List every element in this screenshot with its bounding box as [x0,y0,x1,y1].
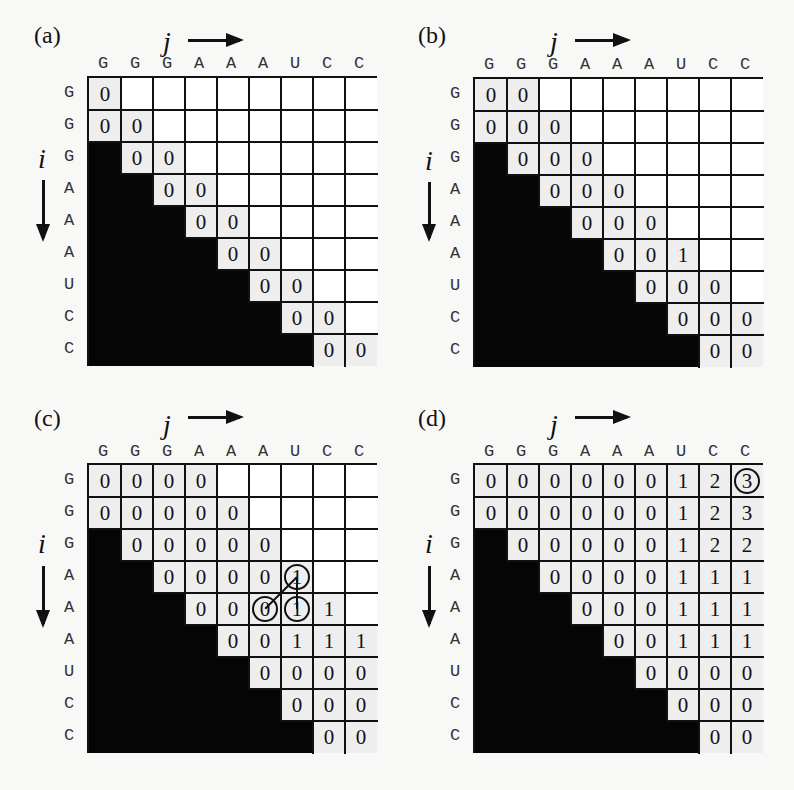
matrix-cell-unused [507,303,539,335]
matrix-cell: 0 [185,529,217,561]
matrix-cell-unused [89,625,121,657]
grid-line [152,528,154,562]
matrix-cell-unused [475,271,507,303]
column-nucleotide-label: U [285,443,305,460]
matrix-cell-unused [539,721,571,753]
matrix-cell-empty [667,111,699,143]
matrix-cell-unused [89,593,121,625]
matrix-cell-empty [603,79,635,111]
matrix-cell: 0 [313,721,345,753]
matrix-cell-unused [571,689,603,721]
grid-line [280,688,314,690]
matrix-cell: 0 [185,465,217,497]
grid-line [120,528,122,562]
grid-line [634,174,668,176]
grid-line [184,141,186,175]
matrix-cell-unused [475,303,507,335]
matrix-cell: 0 [217,625,249,657]
grid-line [730,302,732,336]
grid-line [216,173,250,175]
column-nucleotide-label: A [253,443,273,460]
grid-line [152,109,186,111]
grid-line [602,110,636,112]
grid-line [248,656,282,658]
grid-line [666,238,700,240]
row-nucleotide-label: A [59,631,79,648]
matrix-cell: 0 [345,657,377,689]
grid-line [216,141,250,143]
grid-line [730,110,764,112]
grid-line [730,78,732,112]
grid-line [666,560,700,562]
matrix-cell: 0 [153,142,185,174]
matrix-cell-unused [539,207,571,239]
grid-line [634,270,668,272]
grid-line [120,464,122,498]
grid-line [344,688,346,722]
grid-line [730,238,732,272]
row-nucleotide-label: A [445,181,465,198]
grid-line [698,334,732,336]
matrix-cell-empty [313,78,345,110]
matrix-cell: 0 [731,303,763,335]
grid-line [312,528,346,530]
matrix-cell-unused [475,239,507,271]
row-nucleotide-label: U [59,276,79,293]
matrix-cell-unused [571,239,603,271]
grid-line [280,301,282,335]
matrix-cell-empty [217,110,249,142]
grid-line [152,528,186,530]
matrix-cell: 0 [603,529,635,561]
matrix-cell-unused [507,593,539,625]
i-axis-label: i [38,145,46,173]
matrix-cell: 0 [89,78,121,110]
down-arrow-icon [42,566,45,624]
matrix-cell-unused [153,593,185,625]
grid-line [344,624,378,626]
column-nucleotide-label: C [317,55,337,72]
matrix-cell: 0 [313,657,345,689]
grid-line [312,109,346,111]
matrix-cell-empty [667,143,699,175]
matrix-cell-unused [539,239,571,271]
grid-line [538,142,572,144]
row-nucleotide-label: G [445,117,465,134]
grid-line [344,141,346,175]
matrix-cell-empty [345,529,377,561]
matrix-cell: 0 [571,143,603,175]
grid-line [666,656,668,690]
grid-line [602,78,604,112]
grid-line [666,270,700,272]
matrix-cell-unused [153,238,185,270]
grid-line [152,592,186,594]
grid-line [506,142,508,176]
grid-line [666,528,668,562]
column-nucleotide-label: C [349,443,369,460]
matrix-cell: 0 [635,465,667,497]
grid-line [248,205,282,207]
grid-line [312,333,346,335]
matrix-cell-unused [475,529,507,561]
grid-line [344,237,378,239]
grid-line [184,205,186,239]
matrix-cell: 0 [699,721,731,753]
grid-line [570,174,572,208]
matrix-cell-unused [153,625,185,657]
matrix-cell-unused [89,657,121,689]
matrix-cell-unused [249,689,281,721]
matrix-cell-unused [635,721,667,753]
matrix-cell: 0 [603,561,635,593]
matrix-cell-empty [731,271,763,303]
matrix-cell-unused [507,271,539,303]
grid-line [730,624,732,658]
grid-line [344,496,346,530]
matrix-cell-empty [281,78,313,110]
matrix-cell-empty [345,110,377,142]
matrix-cell: 0 [507,465,539,497]
column-nucleotide-label: G [157,443,177,460]
grid-line [698,624,732,626]
matrix-cell-unused [185,238,217,270]
matrix-cell-unused [249,302,281,334]
grid-line [120,109,122,143]
grid-line [666,302,700,304]
